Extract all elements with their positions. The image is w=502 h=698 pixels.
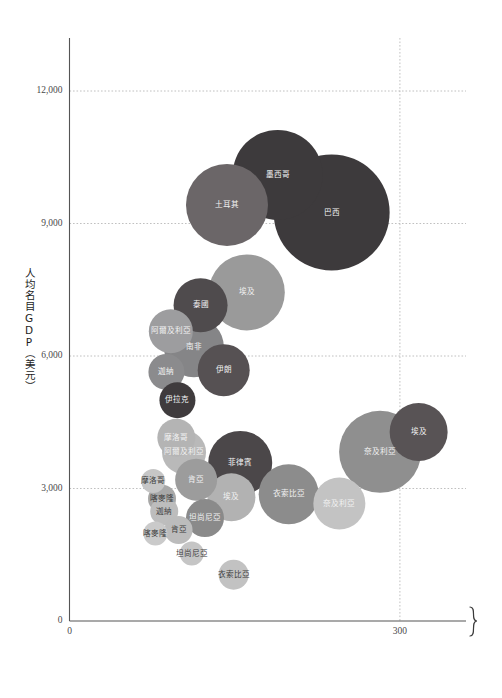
bubble-chart: 人均名目GDP（美元） 03,0006,0009,00012,000 0300 … [0,0,502,698]
bubbles-group [141,130,447,590]
bubble-point[interactable] [175,459,217,501]
y-tick-label: 6,000 [41,350,63,360]
chart-canvas: 03,0006,0009,00012,000 0300 巴西墨西哥土耳其奈及利亞… [0,0,502,698]
bubble-point[interactable] [159,382,195,418]
bubble-point[interactable] [149,309,193,353]
bubble-point[interactable] [390,403,448,461]
bubble-point[interactable] [198,344,250,396]
gridlines-group [70,38,467,621]
y-tick-label: 0 [58,615,63,625]
bubble-point[interactable] [313,478,365,530]
bubble-point[interactable] [143,522,167,546]
y-tick-labels-group: 03,0006,0009,00012,000 [36,85,62,625]
axes-group [70,38,478,636]
bubble-point[interactable] [180,541,204,565]
y-tick-label: 12,000 [36,85,62,95]
bubble-point[interactable] [186,164,268,246]
bubble-point[interactable] [165,516,193,544]
x-tick-label: 0 [67,626,72,636]
bubble-point[interactable] [141,469,165,493]
bubble-point[interactable] [157,419,195,457]
x-tick-labels-group: 0300 [67,626,407,636]
bubble-point[interactable] [259,464,319,524]
y-tick-label: 9,000 [41,218,63,228]
x-tick-label: 300 [393,626,408,636]
y-tick-label: 3,000 [41,483,63,493]
bubble-point[interactable] [219,560,249,590]
x-axis-break-brace [470,607,477,636]
